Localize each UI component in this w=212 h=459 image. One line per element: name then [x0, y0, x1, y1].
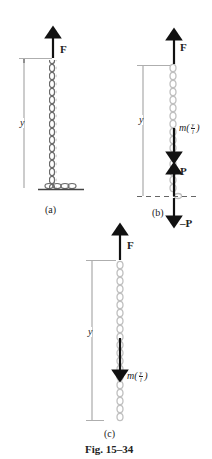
- momentum-label-c: m(yl): [127, 370, 148, 383]
- panel-c: [86, 229, 123, 421]
- panel-label-b: (b): [152, 208, 164, 218]
- figure-caption: Fig. 15–34: [85, 444, 133, 455]
- momentum-label-b: m(yl): [179, 122, 200, 135]
- force-label-f-a: F: [60, 44, 67, 55]
- force-label-p: P: [180, 166, 187, 177]
- dimension-label-y-a: y: [20, 118, 24, 128]
- diagram-canvas: [0, 0, 212, 459]
- panel-label-c: (c): [104, 429, 115, 439]
- panel-label-a: (a): [45, 205, 56, 215]
- chain-a: [45, 60, 76, 189]
- dimension-label-y-c: y: [88, 327, 92, 337]
- force-label-neg-p: –P: [180, 218, 192, 229]
- force-label-f-c: F: [127, 240, 134, 251]
- dimension-label-y-b: y: [139, 115, 143, 125]
- force-label-f-b: F: [180, 42, 187, 53]
- panel-a: [19, 32, 84, 190]
